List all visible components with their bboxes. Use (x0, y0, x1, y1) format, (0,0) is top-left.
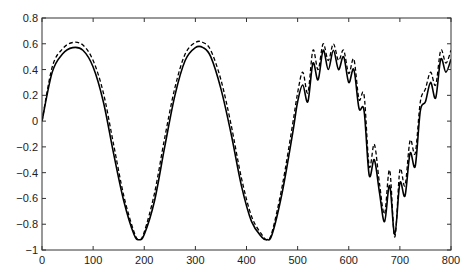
x-tick-label: 500 (288, 254, 306, 266)
y-tick-label: 0.2 (23, 89, 38, 101)
y-tick-label: 0.8 (23, 12, 38, 24)
x-tick-label: 400 (237, 254, 255, 266)
y-tick-label: 0.4 (23, 64, 38, 76)
axes (42, 18, 451, 250)
y-tick-labels: 0.80.60.40.20−0.2−0.4−0.6−0.8−1 (16, 12, 38, 256)
x-tick-label: 0 (39, 254, 45, 266)
x-tick-label: 100 (84, 254, 102, 266)
x-tick-label: 600 (340, 254, 358, 266)
x-tick-label: 300 (186, 254, 204, 266)
y-tick-label: −1 (25, 244, 38, 256)
line-chart: 0100200300400500600700800 0.80.60.40.20−… (0, 0, 476, 275)
x-tick-label: 700 (391, 254, 409, 266)
y-tick-label: 0 (32, 115, 38, 127)
y-tick-label: −0.2 (16, 141, 38, 153)
series-dashed-line (42, 41, 451, 239)
y-tick-label: −0.6 (16, 192, 38, 204)
plot-area (42, 41, 451, 240)
series-solid-line (42, 46, 451, 240)
x-tick-labels: 0100200300400500600700800 (39, 254, 460, 266)
x-tick-label: 200 (135, 254, 153, 266)
y-tick-label: 0.6 (23, 38, 38, 50)
y-tick-label: −0.8 (16, 218, 38, 230)
axes-box (42, 18, 451, 250)
x-tick-label: 800 (442, 254, 460, 266)
y-tick-label: −0.4 (16, 167, 38, 179)
